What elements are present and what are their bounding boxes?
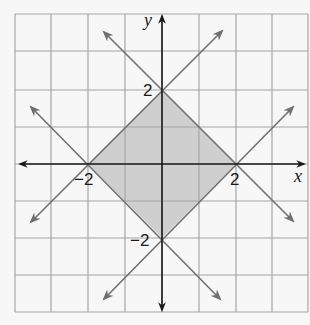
y-tick-label-2: 2	[143, 81, 152, 100]
coordinate-plane: y x −2 2 2 −2	[0, 0, 310, 325]
y-tick-label-neg2: −2	[130, 231, 149, 250]
x-axis-label: x	[293, 166, 302, 186]
y-axis-label: y	[142, 10, 152, 30]
x-tick-label-2: 2	[230, 170, 239, 189]
x-tick-label-neg2: −2	[74, 170, 93, 189]
